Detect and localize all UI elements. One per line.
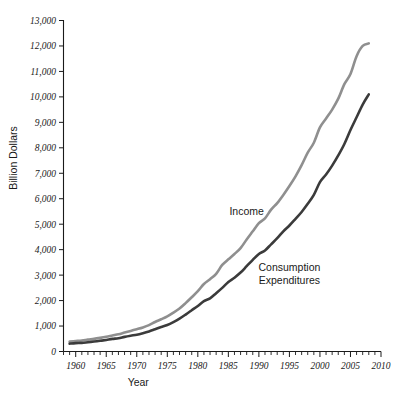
x-tick-label: 1965 — [97, 361, 116, 371]
x-tick-label: 1995 — [280, 361, 299, 371]
y-tick-label: 4,000 — [35, 245, 57, 255]
x-tick-label: 1985 — [219, 361, 238, 371]
y-tick-label: 11,000 — [31, 67, 57, 77]
series-label-consumption: Consumption — [258, 261, 320, 273]
series-line-consumption — [70, 94, 369, 343]
y-tick-label: 13,000 — [30, 16, 56, 26]
x-tick-label: 1960 — [66, 361, 85, 371]
series-label-income: Income — [229, 205, 264, 217]
y-tick-label: 5,000 — [35, 220, 57, 230]
y-tick-label: 8,000 — [35, 143, 57, 153]
y-tick-label: 6,000 — [35, 194, 57, 204]
axis-titles: YearBillion Dollars — [7, 126, 149, 387]
y-tick-label: 12,000 — [30, 41, 56, 51]
x-tick-label: 2000 — [310, 361, 329, 371]
x-tick-label: 1970 — [127, 361, 146, 371]
x-tick-label: 2010 — [372, 361, 391, 371]
y-tick-label: 2,000 — [35, 296, 57, 306]
y-axis: 01,0002,0003,0004,0005,0006,0007,0008,00… — [30, 16, 64, 357]
series-line-income — [70, 43, 369, 341]
y-tick-label: 9,000 — [35, 118, 57, 128]
y-tick-label: 10,000 — [30, 92, 56, 102]
y-tick-label: 7,000 — [35, 169, 57, 179]
x-axis: 1960196519701975198019851990199520002005… — [64, 352, 391, 371]
y-tick-label: 3,000 — [34, 271, 57, 281]
series-lines — [70, 43, 369, 343]
y-tick-label: 1,000 — [35, 321, 57, 331]
y-axis-title: Billion Dollars — [7, 126, 19, 190]
series-label-consumption: Expenditures — [259, 274, 320, 286]
y-tick-label: 0 — [51, 347, 56, 357]
line-chart: 01,0002,0003,0004,0005,0006,0007,0008,00… — [0, 0, 399, 397]
chart-container: 01,0002,0003,0004,0005,0006,0007,0008,00… — [0, 0, 399, 397]
x-tick-label: 2005 — [341, 361, 360, 371]
x-axis-title: Year — [128, 376, 150, 388]
x-tick-label: 1975 — [158, 361, 177, 371]
x-tick-label: 1980 — [188, 361, 207, 371]
x-tick-label: 1990 — [249, 361, 268, 371]
